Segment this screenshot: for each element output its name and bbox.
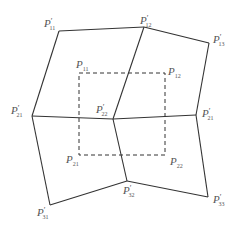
label-p33-prime: P′33 (212, 193, 224, 207)
edge-p23-p33 (196, 115, 208, 197)
edge-p13-p23 (196, 43, 209, 115)
original-square (79, 73, 165, 155)
label-p23-prime: P′21 (201, 107, 213, 121)
edge-p32-p33 (127, 181, 208, 197)
label-p11: P11 (75, 58, 89, 72)
label-p11-prime: P′11 (43, 17, 55, 31)
label-p32-prime: P′32 (122, 184, 134, 198)
label-p22-prime: P′22 (95, 103, 107, 117)
edge-p31-p32 (50, 181, 127, 205)
label-p13-prime: P′13 (212, 33, 224, 47)
label-p21: P21 (65, 153, 79, 167)
label-p21-prime: P′21 (10, 104, 22, 118)
label-p12-prime: P′12 (139, 14, 151, 28)
edge-p21-p31 (32, 116, 50, 205)
label-p22: P22 (169, 155, 183, 169)
label-p12: P12 (167, 65, 181, 79)
edge-p22-p32 (113, 119, 127, 181)
grid-deformation-diagram: P′11 P′12 P′13 P′21 P′22 P′21 P′31 P′32 … (0, 0, 237, 228)
deformed-grid (32, 27, 209, 205)
edge-p22-p23 (113, 115, 196, 119)
label-p31-prime: P′31 (36, 206, 48, 220)
edge-p11-p21 (32, 31, 59, 116)
edge-p12-p13 (144, 27, 209, 43)
edge-p11-p12 (59, 27, 144, 31)
